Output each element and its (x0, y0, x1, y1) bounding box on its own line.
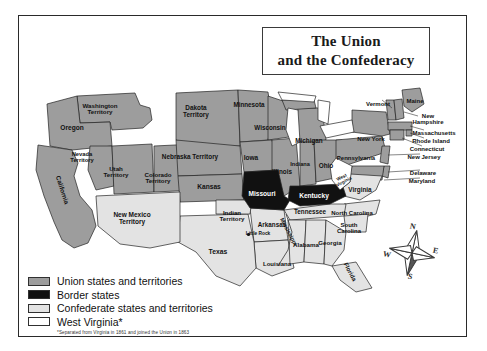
state-south-carolina (344, 214, 368, 232)
state-utah-territory (112, 144, 154, 194)
state-tennessee (284, 204, 346, 220)
label-leader-line-1 (404, 112, 418, 116)
label-leader-line-7 (384, 178, 420, 180)
state-california (36, 145, 96, 248)
label-leader-line-6 (388, 170, 420, 172)
legend-swatch-west-virginia (28, 317, 50, 326)
lake-huron (318, 100, 330, 124)
state-florida (332, 262, 372, 292)
state-dakota-territory (176, 90, 240, 148)
label-leader-line-4 (402, 138, 422, 146)
state-kentucky (288, 184, 346, 206)
label-leader-line-5 (388, 154, 420, 155)
state-rhode-island (406, 130, 412, 136)
state-nevada-territory (88, 146, 114, 190)
legend-label-border-states: Border states (57, 289, 119, 301)
map-legend: Union states and territories Border stat… (28, 275, 213, 335)
state-arkansas (250, 208, 288, 242)
legend-swatch-union (28, 277, 50, 286)
state-indiana (300, 142, 316, 186)
state-mississippi (288, 220, 306, 264)
legend-label-union: Union states and territories (57, 275, 182, 287)
legend-item-confederate: Confederate states and territories (28, 302, 213, 315)
state-minnesota (238, 90, 272, 142)
legend-item-west-virginia: West Virginia* (28, 316, 213, 329)
map-title-cartouche: The Union and the Confederacy (262, 27, 430, 75)
legend-swatch-border-states (28, 290, 50, 299)
legend-footnote: *Separated from Virginia in 1861 and joi… (57, 330, 213, 335)
city-marker-little-rock (247, 233, 250, 236)
state-maine (402, 88, 424, 112)
state-georgia (324, 220, 346, 266)
legend-label-confederate: Confederate states and territories (57, 302, 213, 314)
map-page: Washington TerritoryOregonNevada Territo… (0, 0, 487, 351)
map-title-line-2: and the Confederacy (277, 51, 414, 70)
state-new-york (352, 110, 390, 136)
state-new-hampshire (394, 99, 404, 120)
state-alabama (304, 220, 326, 264)
legend-label-west-virginia: West Virginia* (57, 316, 123, 328)
state-louisiana (254, 240, 294, 276)
state-new-mexico-territory (96, 192, 180, 248)
state-massachusetts (388, 122, 412, 130)
state-connecticut (390, 130, 404, 140)
state-kansas (178, 174, 244, 202)
state-nebraska-territory (176, 140, 242, 176)
legend-item-border-states: Border states (28, 289, 213, 302)
legend-item-union: Union states and territories (28, 275, 213, 288)
compass-rose-icon: N E S W (381, 222, 443, 284)
legend-swatch-confederate (28, 304, 50, 313)
map-title-line-1: The Union (311, 32, 381, 51)
